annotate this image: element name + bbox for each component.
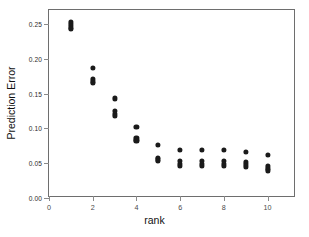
data-point bbox=[90, 80, 95, 85]
x-tick-mark bbox=[49, 196, 50, 201]
data-point bbox=[134, 139, 139, 144]
data-point bbox=[134, 124, 139, 129]
data-point bbox=[221, 163, 226, 168]
data-point bbox=[68, 27, 73, 32]
data-point bbox=[178, 163, 183, 168]
scatter-chart: 0.000.050.100.150.200.25 0246810 rank Pr… bbox=[0, 0, 309, 237]
x-tick-mark bbox=[136, 196, 137, 201]
y-tick-label: 0.15 bbox=[29, 90, 42, 97]
x-tick-mark bbox=[180, 196, 181, 201]
data-point bbox=[112, 114, 117, 119]
data-point bbox=[112, 96, 117, 101]
data-point bbox=[199, 163, 204, 168]
x-tick-label: 8 bbox=[222, 203, 226, 212]
y-tick-mark bbox=[44, 24, 49, 25]
y-tick-label: 0.20 bbox=[29, 55, 42, 62]
data-point bbox=[156, 158, 161, 163]
y-axis-title: Prediction Error bbox=[5, 67, 17, 140]
data-point bbox=[199, 148, 204, 153]
x-tick-mark bbox=[224, 196, 225, 201]
y-tick-label: 0.00 bbox=[29, 195, 42, 202]
data-point bbox=[243, 149, 248, 154]
y-tick-label: 0.25 bbox=[29, 20, 42, 27]
data-point bbox=[265, 168, 270, 173]
y-tick-mark bbox=[44, 163, 49, 164]
data-point bbox=[90, 65, 95, 70]
x-axis-title: rank bbox=[0, 214, 309, 226]
data-point bbox=[221, 148, 226, 153]
data-point bbox=[243, 164, 248, 169]
data-point bbox=[178, 148, 183, 153]
y-tick-mark bbox=[44, 128, 49, 129]
x-tick-mark bbox=[268, 196, 269, 201]
y-tick-label: 0.05 bbox=[29, 160, 42, 167]
x-tick-label: 0 bbox=[47, 203, 51, 212]
x-tick-label: 4 bbox=[134, 203, 138, 212]
y-tick-label: 0.10 bbox=[29, 125, 42, 132]
data-point bbox=[156, 142, 161, 147]
plot-area: 0.000.050.100.150.200.25 0246810 bbox=[48, 9, 295, 197]
y-tick-mark bbox=[44, 59, 49, 60]
data-point bbox=[265, 152, 270, 157]
x-tick-mark bbox=[93, 196, 94, 201]
x-tick-label: 10 bbox=[264, 203, 272, 212]
x-tick-label: 6 bbox=[178, 203, 182, 212]
x-tick-label: 2 bbox=[91, 203, 95, 212]
y-tick-mark bbox=[44, 94, 49, 95]
